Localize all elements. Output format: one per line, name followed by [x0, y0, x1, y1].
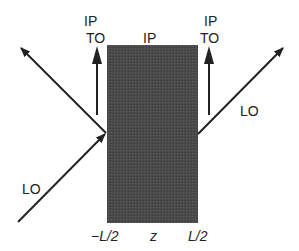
label-lo-right: LO: [240, 104, 259, 118]
label-axis-left: −L/2: [91, 229, 119, 243]
vertical-left-arrowhead-icon: [92, 46, 102, 64]
label-axis-right: L/2: [188, 229, 207, 243]
incident-lo-arrow: [18, 134, 105, 222]
label-axis-mid: z: [150, 229, 157, 243]
label-ip-top-left: IP: [84, 14, 97, 28]
label-lo-left: LO: [22, 182, 41, 196]
label-to-top-right: TO: [200, 31, 219, 45]
label-to-top-left: TO: [86, 31, 105, 45]
slab: [107, 45, 198, 223]
label-ip-center: IP: [143, 31, 156, 45]
label-ip-top-right: IP: [204, 14, 217, 28]
vertical-right-arrowhead-icon: [204, 46, 214, 64]
